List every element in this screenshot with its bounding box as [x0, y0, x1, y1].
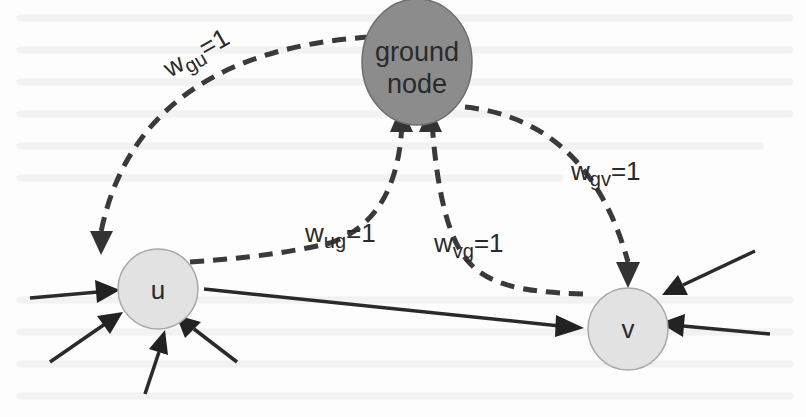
svg-text:wvg=1: wvg=1 [433, 228, 504, 262]
label-w-gu: wgu=1 [157, 22, 236, 87]
label-w-gv-value: =1 [611, 156, 641, 186]
svg-text:wgv=1: wgv=1 [570, 156, 641, 190]
label-w-ug-value: =1 [346, 218, 376, 248]
arrowhead-icon [616, 262, 640, 288]
label-w-ug: wug=1 [304, 218, 376, 252]
arrowhead-icon [90, 231, 113, 255]
node-u-label: u [151, 275, 165, 305]
ground-node-label-line2: node [387, 69, 447, 99]
node-u[interactable]: u [118, 249, 198, 329]
ground-node-label-line1: ground [375, 37, 459, 67]
label-w-ug-base: w [304, 218, 324, 248]
edge-v-to-ground [419, 106, 583, 294]
edge-u-to-ground [190, 106, 413, 262]
label-w-vg-sub: vg [453, 240, 474, 262]
ground-node[interactable]: ground node [362, 0, 472, 125]
label-w-gv-base: w [570, 156, 590, 186]
node-v[interactable]: v [588, 288, 668, 370]
label-w-vg-base: w [433, 228, 453, 258]
label-w-gv-sub: gv [590, 168, 611, 190]
label-w-vg: wvg=1 [433, 228, 504, 262]
svg-text:wgu=1: wgu=1 [157, 22, 236, 87]
label-w-ug-sub: ug [324, 230, 346, 252]
node-v-label: v [622, 314, 635, 344]
label-w-gv: wgv=1 [570, 156, 641, 190]
ground-node-diagram: ground node u v wgu=1 wug=1 wvg=1 wgv=1 [0, 0, 806, 417]
svg-text:wug=1: wug=1 [304, 218, 376, 252]
label-w-vg-value: =1 [474, 228, 504, 258]
edge-ground-to-v [465, 107, 640, 288]
incoming-edges-v [660, 251, 770, 337]
